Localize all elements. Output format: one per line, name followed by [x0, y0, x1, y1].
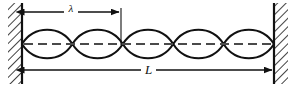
right-wall-hatching: [274, 3, 288, 84]
length-label: L: [144, 62, 152, 77]
wavelength-label: λ: [68, 2, 74, 14]
left-rigid-support: [8, 3, 22, 84]
left-wall-hatching: [8, 3, 22, 84]
wave-envelope-upper: [22, 30, 274, 44]
right-rigid-support: [274, 3, 288, 84]
standing-wave-figure: λ L: [0, 0, 296, 87]
wave-envelope-lower: [22, 44, 274, 58]
